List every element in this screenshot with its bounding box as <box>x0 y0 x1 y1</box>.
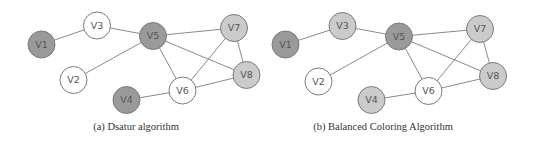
node-v2: V2 <box>60 67 87 94</box>
node-v6: V6 <box>415 78 442 105</box>
nodes-balanced: V1V3V5V7V2V8V6V4 <box>272 13 507 114</box>
node-label: V4 <box>120 94 133 105</box>
node-v3: V3 <box>84 12 111 39</box>
node-v3: V3 <box>329 13 356 40</box>
node-label: V8 <box>240 69 253 80</box>
node-label: V7 <box>228 22 241 33</box>
caption-balanced-coloring: (b) Balanced Coloring Algorithm <box>313 121 453 132</box>
node-v5: V5 <box>386 23 413 50</box>
node-label: V3 <box>336 20 349 31</box>
node-label: V5 <box>393 31 406 42</box>
graph-balanced-coloring: V1V3V5V7V2V8V6V4 <box>272 13 507 114</box>
graph-dsatur: V1V3V5V7V2V8V6V4 <box>28 12 260 114</box>
node-label: V6 <box>422 85 435 96</box>
node-label: V3 <box>91 20 104 31</box>
node-label: V1 <box>279 39 292 50</box>
node-label: V7 <box>474 23 487 34</box>
graph-coloring-figure: V1V3V5V7V2V8V6V4 V1V3V5V7V2V8V6V4 <box>0 0 534 147</box>
node-v6: V6 <box>169 77 196 104</box>
node-label: V2 <box>67 74 80 85</box>
node-label: V4 <box>365 94 378 105</box>
node-v4: V4 <box>358 87 385 114</box>
node-label: V2 <box>312 76 325 87</box>
node-v7: V7 <box>221 15 248 42</box>
node-v8: V8 <box>480 63 507 90</box>
node-v5: V5 <box>140 23 167 50</box>
node-v7: V7 <box>467 16 494 43</box>
node-label: V6 <box>176 85 189 96</box>
node-v2: V2 <box>305 68 332 95</box>
node-label: V5 <box>147 30 160 41</box>
node-v1: V1 <box>28 31 55 58</box>
node-v1: V1 <box>272 31 299 58</box>
node-label: V8 <box>487 70 500 81</box>
node-v4: V4 <box>113 87 140 114</box>
caption-dsatur: (a) Dsatur algorithm <box>93 121 179 132</box>
nodes-dsatur: V1V3V5V7V2V8V6V4 <box>28 12 260 114</box>
node-label: V1 <box>35 39 48 50</box>
node-v8: V8 <box>233 62 260 89</box>
